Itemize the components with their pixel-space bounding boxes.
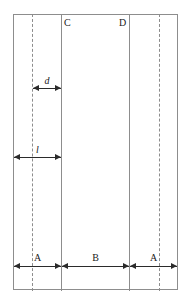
dimension-d: d <box>33 88 61 89</box>
dimension-a-left-rule <box>14 266 61 267</box>
dashed-line-right <box>159 14 160 291</box>
dimension-b: B <box>62 266 129 267</box>
dimension-b-rule <box>62 266 129 267</box>
dimension-l-label: l <box>14 144 61 155</box>
dimension-l: l <box>14 157 61 158</box>
top-label-d: D <box>119 18 126 28</box>
dimension-a-right-arrow-left <box>130 263 136 269</box>
dimension-l-rule <box>14 157 61 158</box>
top-label-c: C <box>64 18 71 28</box>
dimension-d-label: d <box>33 75 61 86</box>
dimension-b-label: B <box>62 252 129 263</box>
diagram-canvas: C D d l A B A <box>0 0 192 306</box>
vertical-line-c <box>61 14 62 291</box>
dimension-a-right-arrow-right <box>171 263 177 269</box>
dimension-a-right-rule <box>130 266 177 267</box>
dimension-a-left-label: A <box>14 252 61 263</box>
dimension-b-arrow-right <box>123 263 129 269</box>
dimension-a-left-arrow-right <box>55 263 61 269</box>
dimension-a-left-arrow-left <box>14 263 20 269</box>
dimension-b-arrow-left <box>62 263 68 269</box>
dimension-a-right-label: A <box>130 252 177 263</box>
dimension-a-left: A <box>14 266 61 267</box>
vertical-line-d <box>129 14 130 291</box>
dimension-a-right: A <box>130 266 177 267</box>
